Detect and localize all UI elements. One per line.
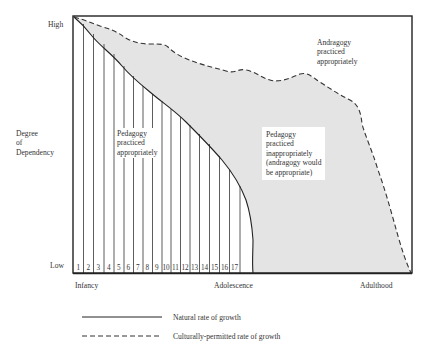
pedagogy-inappropriate-label: Pedagogy practiced inappropriately (andr… [262, 127, 325, 180]
region-label-line: practiced [117, 138, 157, 147]
age-box-number: 2 [87, 264, 91, 273]
age-box-number: 13 [191, 264, 198, 273]
andragogy-appropriate-label: Andragogy practiced appropriately [317, 38, 357, 66]
region-label-line: Pedagogy [266, 130, 321, 139]
y-axis-title-line: of [16, 138, 54, 147]
x-axis-label-infancy: Infancy [75, 281, 98, 290]
age-box-number: 14 [201, 264, 208, 273]
region-label-line: be appropriate) [266, 168, 321, 177]
age-box-number: 17 [231, 264, 238, 273]
region-label-line: appropriately [117, 148, 157, 157]
y-axis-high-label: High [48, 20, 63, 29]
age-box-number: 16 [221, 264, 228, 273]
x-axis-label-adulthood: Adulthood [360, 281, 393, 290]
region-label-line: (andragogy would [266, 158, 321, 167]
region-label-line: Pedagogy [117, 129, 157, 138]
age-box-number: 10 [163, 264, 170, 273]
age-box-number: 9 [155, 264, 159, 273]
y-axis-low-label: Low [50, 261, 64, 270]
age-box-number: 7 [136, 264, 140, 273]
region-label-line: inappropriately [266, 149, 321, 158]
age-box-number: 6 [127, 264, 131, 273]
age-box-number: 1 [77, 264, 81, 273]
legend-natural-label: Natural rate of growth [173, 313, 241, 322]
dependency-diagram [0, 0, 426, 360]
age-box-number: 4 [107, 264, 111, 273]
age-box-number: 3 [97, 264, 101, 273]
region-label-line: practiced [317, 47, 357, 56]
age-box-number: 8 [146, 264, 150, 273]
age-box-number: 15 [211, 264, 218, 273]
y-axis-title-line: Degree [16, 129, 54, 138]
region-label-line: practiced [266, 139, 321, 148]
legend-cultural-label: Culturally-permitted rate of growth [173, 332, 280, 341]
region-label-line: Andragogy [317, 38, 357, 47]
region-label-line: appropriately [317, 57, 357, 66]
age-box-number: 12 [182, 264, 189, 273]
pedagogy-appropriate-label: Pedagogy practiced appropriately [115, 128, 159, 158]
x-axis-label-adolescence: Adolescence [214, 281, 253, 290]
age-box-number: 5 [117, 264, 121, 273]
y-axis-title-line: Dependency [16, 148, 54, 157]
age-box-number: 11 [172, 264, 179, 273]
y-axis-title: Degree of Dependency [16, 129, 54, 157]
